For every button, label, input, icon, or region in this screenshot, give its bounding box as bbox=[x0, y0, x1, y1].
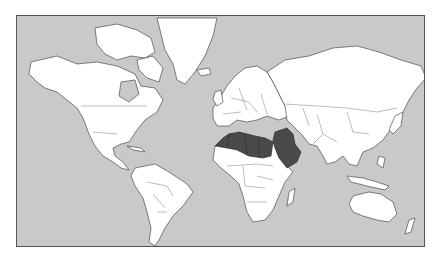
new-zealand bbox=[405, 218, 415, 234]
australia bbox=[349, 192, 397, 222]
indonesia bbox=[347, 176, 389, 190]
baffin-island bbox=[137, 56, 163, 82]
philippines bbox=[377, 156, 385, 168]
madagascar bbox=[287, 188, 295, 206]
iceland bbox=[197, 68, 211, 76]
cuba bbox=[127, 146, 145, 152]
south-america bbox=[131, 164, 193, 246]
arctic-islands bbox=[95, 24, 155, 60]
world-map bbox=[16, 15, 425, 247]
map-svg bbox=[17, 16, 425, 247]
